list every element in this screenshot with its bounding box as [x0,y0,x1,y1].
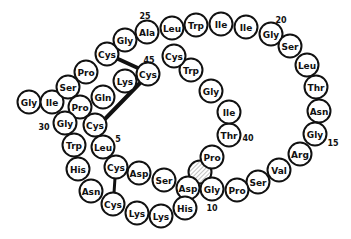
residue-label: Gly [204,185,220,195]
residue-label: Ser [155,176,173,186]
residue-label: Asn [82,187,101,197]
residue-pro: Pro [75,61,98,84]
residue-gly: Gly [304,123,327,146]
residue-label: Asp [130,169,149,179]
residue-cys: Cys [84,114,107,137]
position-number: 10 [206,204,218,213]
residue-ile: Ile [235,16,258,39]
residue-label: Gly [263,30,279,40]
residue-thr: Thr [218,124,241,147]
residue-label: Ile [223,108,236,118]
residue-label: Cys [165,52,183,62]
position-number: 5 [115,135,121,144]
residue-asn: Asn [308,100,331,123]
residue-label: Leu [163,24,181,34]
residue-cys: Cys [163,45,186,68]
residue-label: Lys [153,212,169,222]
residue-gly: Gly [201,178,224,201]
residue-label: Cys [104,200,122,210]
residue-label: Lys [129,209,145,219]
residue-label: Trp [183,66,200,76]
residue-pro: Pro [226,179,249,202]
residue-label: Asn [310,107,329,117]
residue-label: Pro [228,186,245,196]
residue-label: His [70,165,86,175]
residue-ile: Ile [210,13,233,36]
position-number: 30 [38,123,50,132]
residue-label: Ile [46,98,59,108]
residue-label: Gly [307,130,323,140]
residue-label: Trp [188,21,205,31]
residue-label: Thr [308,83,326,93]
residue-asp: Asp [128,162,151,185]
residue-asn: Asn [80,180,103,203]
residue-his: His [174,197,197,220]
residue-label: Asp [179,184,198,194]
residue-label: Cys [98,50,116,60]
residue-pro: Pro [201,146,224,169]
residue-label: Ile [215,20,228,30]
residue-gly: Gly [54,112,77,135]
residue-label: His [177,204,193,214]
residue-lys: Lys [150,205,173,228]
residue-ala: Ala [136,21,159,44]
residue-label: Gly [57,119,73,129]
residue-label: Gly [117,36,133,46]
residue-val: Val [268,159,291,182]
peptide-svg: GlyIleSerProProCysGlyAlaLeuTrpIleIleGlyS… [0,0,351,239]
residue-label: Ser [59,83,77,93]
residue-chain: GlyIleSerProProCysGlyAlaLeuTrpIleIleGlyS… [18,13,331,228]
residue-label: Pro [203,153,220,163]
disulfide-bond [116,58,140,69]
residue-label: Cys [86,121,104,131]
residue-his: His [67,158,90,181]
residue-cys: Cys [102,193,125,216]
residue-ser: Ser [153,169,176,192]
residue-cys: Cys [105,156,128,179]
residue-label: Ile [240,23,253,33]
residue-gly: Gly [200,80,223,103]
position-number: 45 [143,56,155,65]
residue-gln: Gln [92,86,115,109]
residue-leu: Leu [296,54,319,77]
peptide-diagram: GlyIleSerProProCysGlyAlaLeuTrpIleIleGlyS… [0,0,351,239]
residue-label: Leu [94,143,112,153]
residue-leu: Leu [161,17,184,40]
residue-label: Lys [117,77,133,87]
residue-gly: Gly [18,91,41,114]
position-number: 15 [327,139,339,148]
residue-lys: Lys [114,70,137,93]
residue-arg: Arg [289,143,312,166]
position-number: 40 [242,134,254,143]
residue-label: Gly [21,98,37,108]
position-number: 20 [275,16,287,25]
residue-ser: Ser [247,171,270,194]
residue-label: Gln [95,93,112,103]
residue-ile: Ile [218,101,241,124]
residue-label: Ser [281,42,299,52]
residue-label: Arg [291,150,309,160]
residue-label: Gly [203,87,219,97]
residue-label: Ser [249,178,267,188]
residue-trp: Trp [185,14,208,37]
residue-label: Thr [221,131,239,141]
residue-label: Val [271,166,287,176]
residue-label: Cys [107,163,125,173]
residue-ser: Ser [279,35,302,58]
residue-label: Trp [66,141,83,151]
residue-label: Cys [139,70,157,80]
residue-label: Leu [298,61,316,71]
residue-thr: Thr [305,76,328,99]
residue-cys: Cys [137,63,160,86]
residue-label: Pro [77,68,94,78]
disulfide-bond [114,178,115,193]
residue-gly: Gly [114,29,137,52]
residue-trp: Trp [63,134,86,157]
residue-lys: Lys [126,202,149,225]
residue-label: Ala [139,28,155,38]
residue-label: Pro [71,103,88,113]
residue-leu: Leu [92,136,115,159]
position-number: 25 [139,12,151,21]
